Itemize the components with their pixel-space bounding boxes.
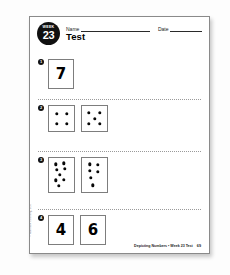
worksheet-footer: Depicting Numbers • Week 23 Test 69 [38,244,201,248]
dot-card[interactable] [81,157,108,193]
problem-row: 17 [30,55,209,99]
numeral-value: 6 [88,223,98,238]
side-credit-text: © Newmark Learning, LLC [29,204,32,237]
dot-mark [89,176,92,179]
dot-mark [62,162,65,165]
problem-number-1: 1 [38,59,44,65]
dot-mark [91,183,94,186]
dot-mark [96,163,99,166]
card-strip: 7 [48,59,74,89]
problem-row: 2 [30,101,209,151]
dot-mark [63,167,66,170]
worksheet-header: Week 23 Name Date Test [30,17,209,53]
dot-mark [55,122,58,125]
dot-card[interactable] [48,157,75,193]
dot-mark [88,162,91,165]
dot-mark [65,112,68,115]
week-badge-number: 23 [43,30,55,41]
card-strip: 46 [48,215,106,245]
dot-mark [96,170,99,173]
dot-mark [57,184,60,187]
numeral-card[interactable]: 7 [48,59,74,89]
footer-title: Depicting Numbers • Week 23 Test [134,244,193,248]
section-divider [38,209,201,210]
dot-mark [87,122,90,125]
worksheet-page: Week 23 Name Date Test 17 2 3 446 Depict… [29,16,210,254]
numeral-value: 4 [56,223,66,238]
dot-mark [87,111,90,114]
name-date-row: Name Date [66,23,202,32]
dot-mark [93,117,96,120]
card-strip [48,157,108,193]
name-input-rule[interactable] [81,25,150,32]
dot-mark [62,178,65,181]
dot-mark [98,122,101,125]
section-divider [38,151,201,152]
card-strip [48,105,108,132]
page-title: Test [66,31,85,42]
numeral-card[interactable]: 4 [48,215,74,245]
date-label: Date [150,26,171,33]
dot-mark [65,122,68,125]
dot-mark [58,173,61,176]
section-divider [38,99,201,100]
numeral-card[interactable]: 6 [80,215,106,245]
dot-mark [54,162,57,165]
dot-mark [55,168,58,171]
problem-number-3: 3 [38,157,44,163]
dot-card[interactable] [81,105,108,132]
numeral-value: 7 [56,67,66,82]
dot-card[interactable] [48,105,75,132]
problem-number-4: 4 [38,215,44,221]
dot-mark [88,169,91,172]
dot-mark [98,111,101,114]
dot-mark [54,179,57,182]
problem-number-2: 2 [38,105,44,111]
date-input-rule[interactable] [170,25,202,32]
dot-mark [55,112,58,115]
week-badge: Week 23 [37,22,60,45]
footer-page-number: 69 [197,244,201,248]
problem-row: 3 [30,153,209,209]
